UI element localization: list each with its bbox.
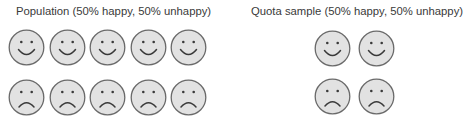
- happy-face-icon: [8, 29, 45, 66]
- unhappy-face-icon: [8, 79, 45, 116]
- unhappy-face-icon: [49, 79, 86, 116]
- happy-face-icon: [130, 29, 167, 66]
- happy-face-icon: [314, 30, 351, 67]
- unhappy-face-icon: [170, 79, 207, 116]
- happy-face-icon: [89, 29, 126, 66]
- happy-face-icon: [170, 29, 207, 66]
- unhappy-face-icon: [358, 78, 395, 115]
- unhappy-face-icon: [89, 79, 126, 116]
- unhappy-face-icon: [314, 78, 351, 115]
- happy-face-icon: [49, 29, 86, 66]
- quota-sample-title: Quota sample (50% happy, 50% unhappy): [251, 5, 463, 17]
- population-title: Population (50% happy, 50% unhappy): [16, 5, 211, 17]
- unhappy-face-icon: [130, 79, 167, 116]
- happy-face-icon: [358, 30, 395, 67]
